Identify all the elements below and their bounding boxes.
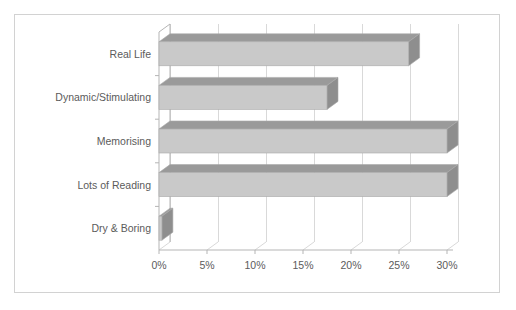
value-axis-label: 0% xyxy=(134,259,184,271)
bar-front-face xyxy=(159,216,162,240)
value-axis-label: 15% xyxy=(278,259,328,271)
gridline-depth xyxy=(303,242,314,250)
bar-series xyxy=(159,34,458,240)
bar-front-face xyxy=(159,129,447,153)
value-axis-label: 20% xyxy=(326,259,376,271)
bar-top-face xyxy=(159,77,338,85)
bar xyxy=(159,208,173,240)
value-axis-label: 5% xyxy=(182,259,232,271)
category-axis-label: Dynamic/Stimulating xyxy=(55,91,151,103)
category-axis-label: Dry & Boring xyxy=(91,222,151,234)
value-axis xyxy=(159,250,453,254)
bar-top-face xyxy=(159,34,420,42)
gridline-depth xyxy=(351,242,362,250)
bar-front-face xyxy=(159,42,409,66)
gridline-depth xyxy=(447,242,458,250)
bar-front-face xyxy=(159,85,327,109)
gridline-depth xyxy=(159,242,170,250)
bar-front-face xyxy=(159,173,447,197)
value-axis-label: 30% xyxy=(422,259,472,271)
category-axis-top-cap xyxy=(159,24,170,32)
bar xyxy=(159,34,420,66)
bar-top-face xyxy=(159,165,458,173)
bar-top-face xyxy=(159,121,458,129)
value-axis-label: 25% xyxy=(374,259,424,271)
gridline-depth xyxy=(207,242,218,250)
bar xyxy=(159,121,458,153)
bar xyxy=(159,165,458,197)
category-axis-label: Memorising xyxy=(97,135,151,147)
bar xyxy=(159,77,338,109)
category-axis-label: Lots of Reading xyxy=(77,179,151,191)
gridline-depth xyxy=(399,242,410,250)
value-axis-label: 10% xyxy=(230,259,280,271)
chart-root: Dry & BoringLots of ReadingMemorisingDyn… xyxy=(0,0,516,310)
gridline-depth xyxy=(255,242,266,250)
gridline-depth-connectors xyxy=(159,242,458,250)
category-axis-label: Real Life xyxy=(110,48,151,60)
